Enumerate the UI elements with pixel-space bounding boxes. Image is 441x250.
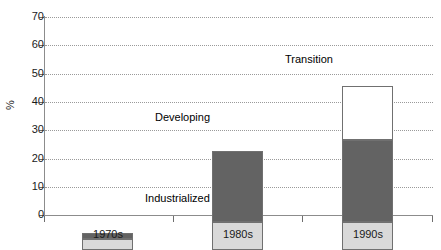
series-label-transition: Transition xyxy=(283,53,335,66)
series-label-industrialized: Industrialized xyxy=(143,192,212,205)
x-tick-mark-start xyxy=(44,216,45,222)
bar-segment-transition-1990s[interactable] xyxy=(342,86,393,140)
bar-group-1970s[interactable] xyxy=(82,35,133,250)
series-label-developing: Developing xyxy=(153,111,212,124)
y-tick-label-20: 20 xyxy=(10,153,44,164)
y-tick-label-70: 70 xyxy=(10,11,44,22)
y-axis-line xyxy=(44,16,45,216)
bar-group-1990s[interactable] xyxy=(342,35,393,250)
y-tick-label-50: 50 xyxy=(10,68,44,79)
x-tick-mark-end xyxy=(432,216,433,222)
bar-segment-industrialized-1970s[interactable] xyxy=(82,239,133,250)
x-tick-mark-1 xyxy=(173,216,174,222)
bar-group-1980s[interactable] xyxy=(212,35,263,250)
x-tick-mark-2 xyxy=(302,216,303,222)
x-tick-label-1970s: 1970s xyxy=(93,228,123,240)
bar-segment-developing-1990s[interactable] xyxy=(342,140,393,222)
y-tick-label-10: 10 xyxy=(10,181,44,192)
gridline-70 xyxy=(45,17,433,19)
y-tick-label-40: 40 xyxy=(10,96,44,107)
y-tick-label-0: 0 xyxy=(10,209,44,220)
x-tick-label-1990s: 1990s xyxy=(353,228,383,240)
y-tick-label-60: 60 xyxy=(10,39,44,50)
x-tick-label-1980s: 1980s xyxy=(223,228,253,240)
y-tick-label-30: 30 xyxy=(10,124,44,135)
stacked-bar-chart: % 70 60 50 40 30 20 10 0 xyxy=(0,0,441,250)
bar-segment-developing-1980s[interactable] xyxy=(212,151,263,222)
